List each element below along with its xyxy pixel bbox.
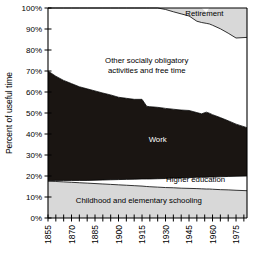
band-label-other-socially-obligatory: Other socially obligatory: [105, 56, 188, 65]
y-tick-label: 40%: [26, 130, 42, 139]
x-tick-label: 1915: [137, 225, 147, 244]
y-tick-label: 20%: [26, 172, 42, 181]
band-label-activities-and-free-time: activities and free time: [108, 66, 186, 75]
x-tick-label: 1975: [231, 225, 241, 244]
chart-container: 0%10%20%30%40%50%60%70%80%90%100% 185518…: [0, 0, 258, 260]
x-tick-label: 1870: [67, 225, 77, 244]
x-tick-label: 1930: [161, 225, 171, 244]
y-axis-title: Percent of useful time: [4, 72, 14, 154]
y-tick-label: 100%: [22, 4, 42, 13]
x-tick-label: 1885: [90, 225, 100, 244]
y-tick-label: 60%: [26, 88, 42, 97]
y-axis-title-text: Percent of useful time: [4, 72, 14, 154]
band-label-higher-education: Higher education: [166, 175, 225, 184]
y-tick-label: 80%: [26, 46, 42, 55]
y-tick-label: 70%: [26, 67, 42, 76]
x-tick-label: 1900: [114, 225, 124, 244]
y-tick-label: 10%: [26, 193, 42, 202]
x-tick-label: 1855: [43, 225, 53, 244]
band-label-work: Work: [149, 135, 167, 144]
stacked-area-chart: 0%10%20%30%40%50%60%70%80%90%100% 185518…: [0, 0, 258, 260]
y-tick-label: 90%: [26, 25, 42, 34]
y-tick-label: 30%: [26, 151, 42, 160]
y-tick-label: 50%: [26, 109, 42, 118]
band-label-childhood-and-elementary-schooling: Childhood and elementary schooling: [76, 196, 202, 205]
x-tick-label: 1945: [184, 225, 194, 244]
x-axis-tick-labels: 185518701885190019151930194519601975: [43, 225, 241, 244]
band-label-retirement: Retirement: [185, 9, 224, 18]
x-tick-label: 1960: [208, 225, 218, 244]
chart-areas: [48, 8, 247, 218]
y-tick-label: 0%: [30, 214, 42, 223]
